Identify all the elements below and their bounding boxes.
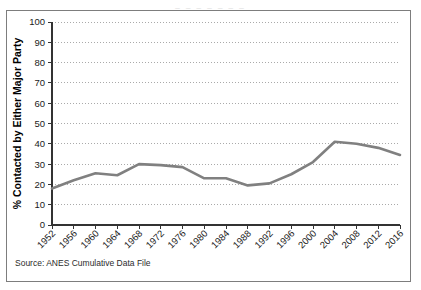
x-axis-tick-label: 2016 [383,228,406,251]
data-series-line [52,142,400,189]
y-axis-tick-label: 100 [29,16,45,27]
x-axis-tick-label: 1960 [78,228,101,251]
x-axis-tick-label: 1992 [252,228,275,251]
clipped-header-text: _ _ _ _ _ _ _ [0,0,421,9]
y-axis-tick-label: 50 [34,118,45,129]
x-axis-ticks-group: 1952195619601964196819721976198019841988… [35,225,406,250]
x-axis-tick-label: 1996 [274,228,297,251]
y-axis-tick-label: 80 [34,57,45,68]
y-axis-tick-label: 20 [34,179,45,190]
y-axis-tick-label: 60 [34,98,45,109]
y-axis-tick-label: 40 [34,138,45,149]
x-axis-tick-label: 1964 [100,228,123,251]
y-axis-label: % Contacted by Either Major Party [11,38,23,210]
y-axis-tick-label: 70 [34,77,45,88]
chart-frame: 0102030405060708090100 19521956196019641… [6,10,411,282]
x-axis-tick-label: 2008 [339,228,362,251]
x-axis-tick-label: 2000 [296,228,319,251]
y-axis-tick-label: 10 [34,199,45,210]
x-axis-tick-label: 2012 [361,228,384,251]
x-axis-tick-label: 1984 [209,228,232,251]
y-axis-ticks-group: 0102030405060708090100 [29,16,52,230]
gridlines-group [52,22,400,225]
x-axis-tick-label: 1952 [35,228,58,251]
y-axis-tick-label: 90 [34,37,45,48]
x-axis-tick-label: 1976 [165,228,188,251]
line-chart: 0102030405060708090100 19521956196019641… [7,11,410,281]
x-axis-tick-label: 1972 [143,228,166,251]
y-axis-tick-label: 30 [34,159,45,170]
y-axis-tick-label: 0 [40,219,45,230]
x-axis-tick-label: 1988 [230,228,253,251]
x-axis-tick-label: 2004 [317,228,340,251]
x-axis-tick-label: 1980 [187,228,210,251]
source-note: Source: ANES Cumulative Data File [15,258,151,268]
x-axis-tick-label: 1968 [122,228,145,251]
x-axis-tick-label: 1956 [56,228,79,251]
